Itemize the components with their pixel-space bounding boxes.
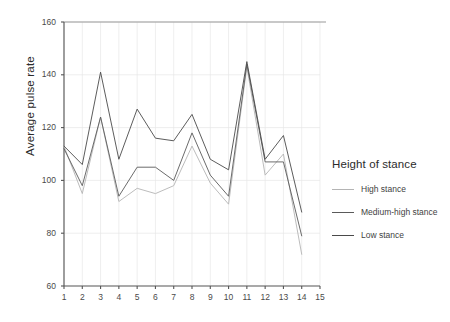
y-tick-label: 100 bbox=[34, 175, 56, 185]
x-tick-label: 15 bbox=[310, 292, 330, 302]
legend-item-label: Medium-high stance bbox=[361, 206, 438, 218]
x-tick-label: 8 bbox=[182, 292, 202, 302]
legend-swatch-line-icon bbox=[332, 212, 354, 213]
y-tick-label: 140 bbox=[34, 69, 56, 79]
y-tick-label: 80 bbox=[34, 228, 56, 238]
x-tick-label: 2 bbox=[72, 292, 92, 302]
line-chart: Average pulse rate 6080100120140160 1234… bbox=[0, 0, 450, 322]
legend-item-label: Low stance bbox=[361, 229, 404, 241]
series-line-1 bbox=[64, 67, 302, 254]
x-tick-label: 4 bbox=[109, 292, 129, 302]
legend-item[interactable]: Medium-high stance bbox=[332, 206, 448, 218]
x-tick-label: 3 bbox=[91, 292, 111, 302]
legend-item-label: High stance bbox=[361, 183, 406, 195]
x-tick-label: 14 bbox=[292, 292, 312, 302]
series-line-3 bbox=[64, 62, 302, 212]
x-tick-label: 12 bbox=[255, 292, 275, 302]
y-tick-label: 60 bbox=[34, 281, 56, 291]
series-line-2 bbox=[64, 64, 302, 236]
legend: Height of stance High stanceMedium-high … bbox=[332, 158, 448, 252]
x-tick-label: 5 bbox=[127, 292, 147, 302]
legend-items: High stanceMedium-high stanceLow stance bbox=[332, 183, 448, 241]
legend-swatch-line-icon bbox=[332, 235, 354, 236]
legend-item[interactable]: High stance bbox=[332, 183, 448, 195]
x-tick-label: 10 bbox=[219, 292, 239, 302]
x-tick-label: 13 bbox=[273, 292, 293, 302]
x-tick-label: 1 bbox=[54, 292, 74, 302]
legend-title: Height of stance bbox=[332, 158, 448, 170]
y-tick-label: 120 bbox=[34, 122, 56, 132]
x-tick-label: 6 bbox=[145, 292, 165, 302]
y-tick-label: 160 bbox=[34, 17, 56, 27]
legend-swatch-line-icon bbox=[332, 189, 354, 190]
legend-item[interactable]: Low stance bbox=[332, 229, 448, 241]
x-tick-label: 7 bbox=[164, 292, 184, 302]
x-tick-label: 9 bbox=[200, 292, 220, 302]
x-tick-label: 11 bbox=[237, 292, 257, 302]
